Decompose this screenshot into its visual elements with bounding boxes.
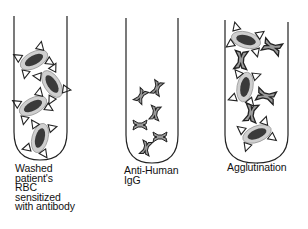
agglutinated-rbc bbox=[232, 112, 280, 156]
anti-human-igg-molecule bbox=[149, 105, 161, 121]
tube-2 bbox=[126, 18, 178, 163]
anti-human-igg-molecule bbox=[133, 120, 147, 130]
anti-human-igg-molecule bbox=[243, 103, 259, 123]
anti-human-igg-molecule bbox=[150, 80, 164, 97]
tube-3-label: Agglutination bbox=[227, 163, 286, 173]
coombs-test-diagram: Washed patient's RBC sensitized with ant… bbox=[0, 0, 308, 229]
anti-human-igg-molecule bbox=[261, 38, 283, 56]
anti-human-igg-molecule bbox=[139, 140, 152, 156]
anti-human-igg-molecule bbox=[153, 132, 167, 142]
tube-2-outline bbox=[126, 18, 178, 163]
agglutinated-rbc bbox=[225, 65, 263, 109]
anti-human-igg-molecule bbox=[256, 87, 277, 104]
tube-1 bbox=[7, 16, 75, 162]
tube-1-label: Washed patient's RBC sensitized with ant… bbox=[15, 164, 75, 212]
tube-2-label: Anti-Human IgG bbox=[124, 166, 178, 185]
tube-3 bbox=[222, 19, 288, 163]
anti-human-igg-molecule bbox=[133, 87, 149, 104]
anti-human-igg-molecule bbox=[234, 50, 249, 69]
